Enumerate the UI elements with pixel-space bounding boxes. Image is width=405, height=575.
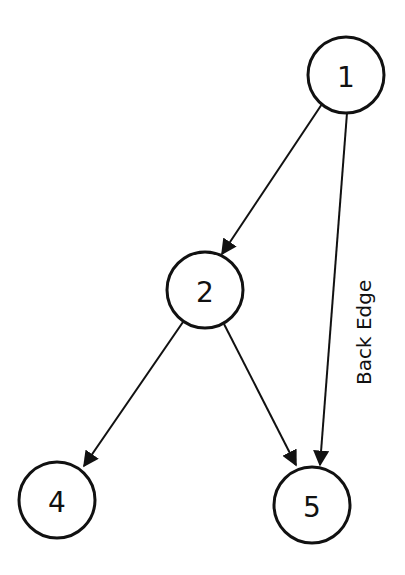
graph-canvas: Back Edge 1 2 4 5 (0, 0, 405, 575)
svg-text:1: 1 (337, 61, 355, 94)
back-edge-label: Back Edge (352, 280, 376, 385)
node-5: 5 (274, 467, 350, 543)
node-4: 4 (19, 462, 95, 538)
edge-2-to-5 (224, 324, 296, 465)
svg-text:2: 2 (196, 276, 214, 309)
node-1: 1 (308, 37, 384, 113)
edge-1-to-5-back-edge (320, 113, 347, 465)
node-2: 2 (167, 252, 243, 328)
edge-1-to-2 (222, 104, 322, 254)
svg-text:4: 4 (48, 486, 66, 519)
edge-2-to-4 (84, 322, 183, 466)
svg-text:5: 5 (303, 491, 321, 524)
